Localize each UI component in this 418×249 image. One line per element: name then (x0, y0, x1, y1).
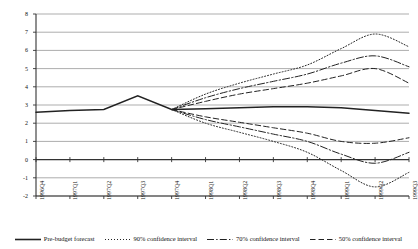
chart-legend: Pre-budget forecast90% confidence interv… (0, 231, 417, 245)
legend-swatch (15, 236, 41, 241)
legend-swatch (310, 236, 336, 241)
x-axis-label: 1999Q1 (344, 181, 350, 200)
series-line (172, 68, 409, 109)
y-axis-label: 0 (12, 157, 28, 163)
legend-item: Pre-budget forecast (15, 235, 95, 242)
series-line (172, 34, 409, 110)
series-line (172, 110, 409, 144)
y-axis-label: 5 (12, 66, 28, 72)
x-axis-label: 1998Q1 (208, 181, 214, 200)
y-axis-label: 4 (12, 84, 28, 90)
x-axis-label: 1998Q4 (310, 181, 316, 200)
y-axis-label: 8 (12, 11, 28, 17)
x-axis-label: 1997Q3 (140, 181, 146, 200)
x-axis-label: 1999Q2 (378, 181, 384, 200)
series-line (172, 110, 409, 187)
x-axis-label: 1997Q4 (174, 181, 180, 200)
y-axis-label: 1 (12, 138, 28, 144)
legend-label: Pre-budget forecast (44, 235, 95, 242)
legend-item: 50% confidence interval (310, 235, 403, 242)
y-axis-label: 3 (12, 102, 28, 108)
legend-label: 70% confidence interval (236, 235, 300, 242)
legend-label: 90% confidence interval (134, 235, 198, 242)
x-axis-label: 1996Q4 (39, 181, 45, 200)
legend-item: 90% confidence interval (105, 235, 198, 242)
y-axis-label: -1 (12, 175, 28, 181)
y-axis-label: 6 (12, 47, 28, 53)
x-axis-label: 1998Q3 (276, 181, 282, 200)
x-axis-label: 1998Q2 (242, 181, 248, 200)
legend-swatch (105, 236, 131, 241)
y-axis-label: 7 (12, 29, 28, 35)
x-axis-label: 1997Q1 (72, 181, 78, 200)
legend-swatch (207, 236, 233, 241)
legend-label: 50% confidence interval (339, 235, 403, 242)
y-axis-label: 2 (12, 120, 28, 126)
y-axis-label: -2 (12, 193, 28, 199)
series-line (172, 56, 409, 110)
x-axis-label: 1999Q3 (412, 181, 418, 200)
legend-item: 70% confidence interval (207, 235, 300, 242)
x-axis-label: 1997Q2 (106, 181, 112, 200)
series-line (36, 96, 409, 113)
